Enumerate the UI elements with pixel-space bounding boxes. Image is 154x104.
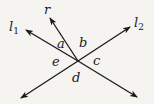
angle-label-e: e [52, 54, 60, 69]
angle-label-d: d [72, 70, 80, 85]
label-r: r [44, 2, 51, 17]
line-l2-lower [21, 61, 78, 98]
line-l1-lower [78, 61, 137, 97]
angle-label-a: a [57, 36, 65, 51]
diagram-canvas: l1 l2 r a b c d e [0, 0, 154, 104]
angle-label-b: b [79, 35, 87, 50]
label-l2: l2 [134, 15, 144, 32]
label-l1: l1 [9, 19, 19, 36]
intersecting-lines-diagram: l1 l2 r a b c d e [0, 0, 154, 104]
angle-label-c: c [93, 53, 101, 68]
